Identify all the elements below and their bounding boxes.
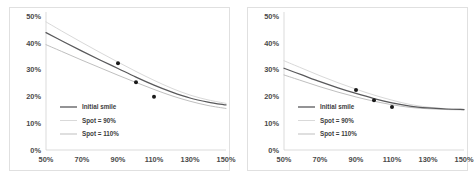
y-tick-label: 10% — [264, 119, 279, 128]
right-chart-plot: 0%10%20%30%40%50%50%70%90%110%130%150%In… — [238, 0, 476, 183]
y-tick-label: 0% — [268, 146, 279, 155]
data-point-marker — [152, 95, 156, 99]
y-tick-label: 10% — [26, 119, 41, 128]
data-point-marker — [354, 88, 358, 92]
series-line-spot-90 — [46, 22, 226, 103]
x-tick-label: 90% — [349, 155, 364, 164]
legend-label: Spot = 110% — [82, 130, 119, 138]
x-tick-label: 70% — [313, 155, 328, 164]
y-tick-label: 30% — [26, 65, 41, 74]
series-line-spot-110 — [284, 75, 464, 110]
x-tick-label: 90% — [111, 155, 126, 164]
data-point-marker — [372, 98, 376, 102]
legend-label: Spot = 90% — [320, 117, 354, 125]
series-line-initial-smile — [284, 68, 464, 109]
x-tick-label: 110% — [145, 155, 164, 164]
y-tick-label: 30% — [264, 65, 279, 74]
legend-label: Initial smile — [82, 103, 117, 110]
y-tick-label: 40% — [264, 39, 279, 48]
series-line-initial-smile — [46, 33, 226, 105]
y-tick-label: 20% — [264, 92, 279, 101]
x-tick-label: 130% — [419, 155, 438, 164]
x-tick-label: 110% — [383, 155, 402, 164]
x-tick-label: 70% — [75, 155, 90, 164]
x-tick-label: 50% — [39, 155, 54, 164]
y-tick-label: 0% — [30, 146, 41, 155]
y-tick-label: 40% — [26, 39, 41, 48]
x-tick-label: 50% — [277, 155, 292, 164]
x-tick-label: 150% — [455, 155, 474, 164]
y-tick-label: 50% — [264, 12, 279, 21]
x-tick-label: 130% — [181, 155, 200, 164]
data-point-marker — [390, 105, 394, 109]
right-chart-panel: 0%10%20%30%40%50%50%70%90%110%130%150%In… — [238, 0, 476, 183]
legend-label: Spot = 110% — [320, 130, 357, 138]
y-tick-label: 50% — [26, 12, 41, 21]
data-point-marker — [134, 80, 138, 84]
left-chart-panel: 0%10%20%30%40%50%50%70%90%110%130%150%In… — [0, 0, 238, 183]
y-tick-label: 20% — [26, 92, 41, 101]
left-chart-plot: 0%10%20%30%40%50%50%70%90%110%130%150%In… — [0, 0, 238, 183]
legend-label: Initial smile — [320, 103, 355, 110]
legend-label: Spot = 90% — [82, 117, 116, 125]
data-point-marker — [116, 61, 120, 65]
x-tick-label: 150% — [217, 155, 236, 164]
two-panel-volatility-smile-figure: 0%10%20%30%40%50%50%70%90%110%130%150%In… — [0, 0, 476, 183]
